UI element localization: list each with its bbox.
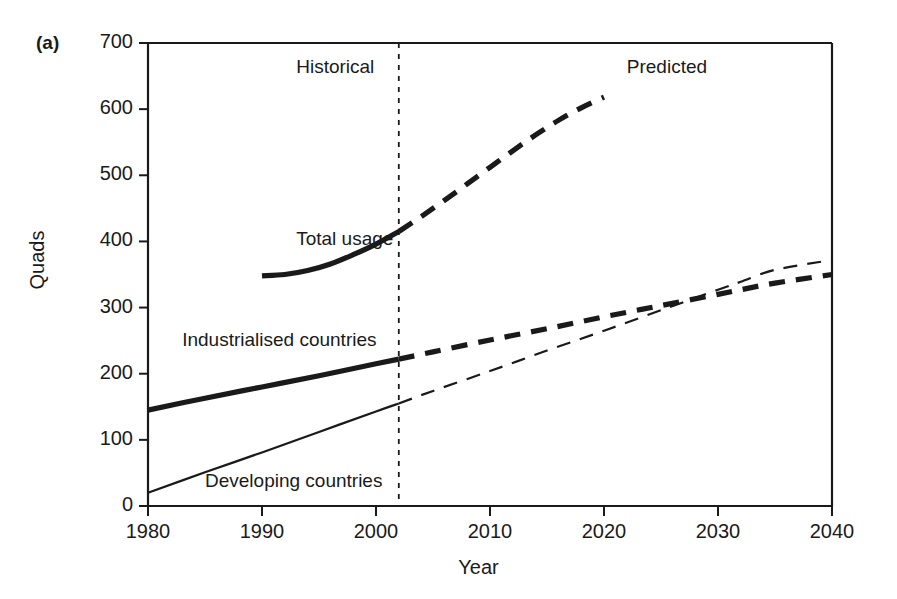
series-line-predicted: [399, 260, 832, 404]
series-line-historical: [148, 359, 399, 410]
panel-label: (a): [36, 32, 59, 54]
series-label: Industrialised countries: [182, 329, 376, 351]
x-tick-label: 2040: [787, 520, 877, 543]
x-axis-title-text: Year: [458, 556, 498, 578]
series-label: Developing countries: [205, 470, 382, 492]
x-tick-label: 2020: [559, 520, 649, 543]
y-axis-title: Quads: [26, 210, 49, 310]
series-paths: [148, 97, 832, 493]
y-tick-label: 0: [73, 493, 133, 516]
series-label: Total usage: [296, 228, 393, 250]
y-tick-label: 600: [73, 96, 133, 119]
x-tick-label: 1980: [103, 520, 193, 543]
series-line-predicted: [399, 97, 604, 231]
y-tick-label: 100: [73, 427, 133, 450]
y-tick-label: 200: [73, 361, 133, 384]
tick-marks: [139, 43, 832, 516]
x-tick-label: 2030: [673, 520, 763, 543]
axis-lines: [148, 43, 832, 506]
y-tick-label: 700: [73, 30, 133, 53]
x-tick-label: 2000: [331, 520, 421, 543]
y-tick-label: 400: [73, 228, 133, 251]
x-axis-title: Year: [0, 556, 897, 579]
chart-figure: (a) Quads Year 0100200300400500600700 19…: [0, 0, 897, 599]
period-label: Historical: [296, 56, 374, 78]
x-tick-label: 2010: [445, 520, 535, 543]
y-tick-label: 300: [73, 295, 133, 318]
period-label: Predicted: [627, 56, 707, 78]
series-line-predicted: [399, 275, 832, 360]
y-tick-label: 500: [73, 162, 133, 185]
plot-canvas: [0, 0, 897, 599]
x-tick-label: 1990: [217, 520, 307, 543]
